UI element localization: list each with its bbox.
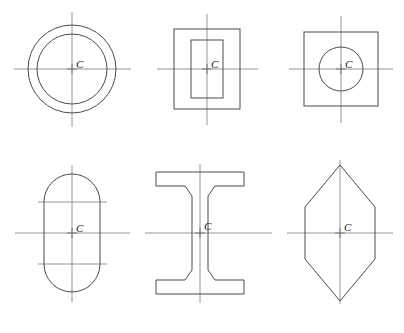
shape-i-beam: C (145, 164, 272, 303)
square-with-hole-centroid-label: C (345, 58, 353, 70)
shape-stadium: C (15, 165, 130, 302)
i-beam-centroid-label: C (204, 220, 212, 232)
shape-hexagon: C (287, 160, 393, 304)
hollow-rectangle-centroid-label: C (211, 58, 219, 70)
hexagon-centroid-label: C (344, 221, 352, 233)
stadium-centroid-label: C (76, 222, 84, 234)
figure-root: C C C (0, 0, 404, 333)
shape-annulus: C (14, 12, 131, 127)
annulus-centroid-label: C (76, 58, 84, 70)
shape-square-with-hole: C (289, 16, 393, 123)
shape-hollow-rectangle: C (157, 14, 258, 125)
cross-section-figure: C C C (0, 0, 404, 333)
